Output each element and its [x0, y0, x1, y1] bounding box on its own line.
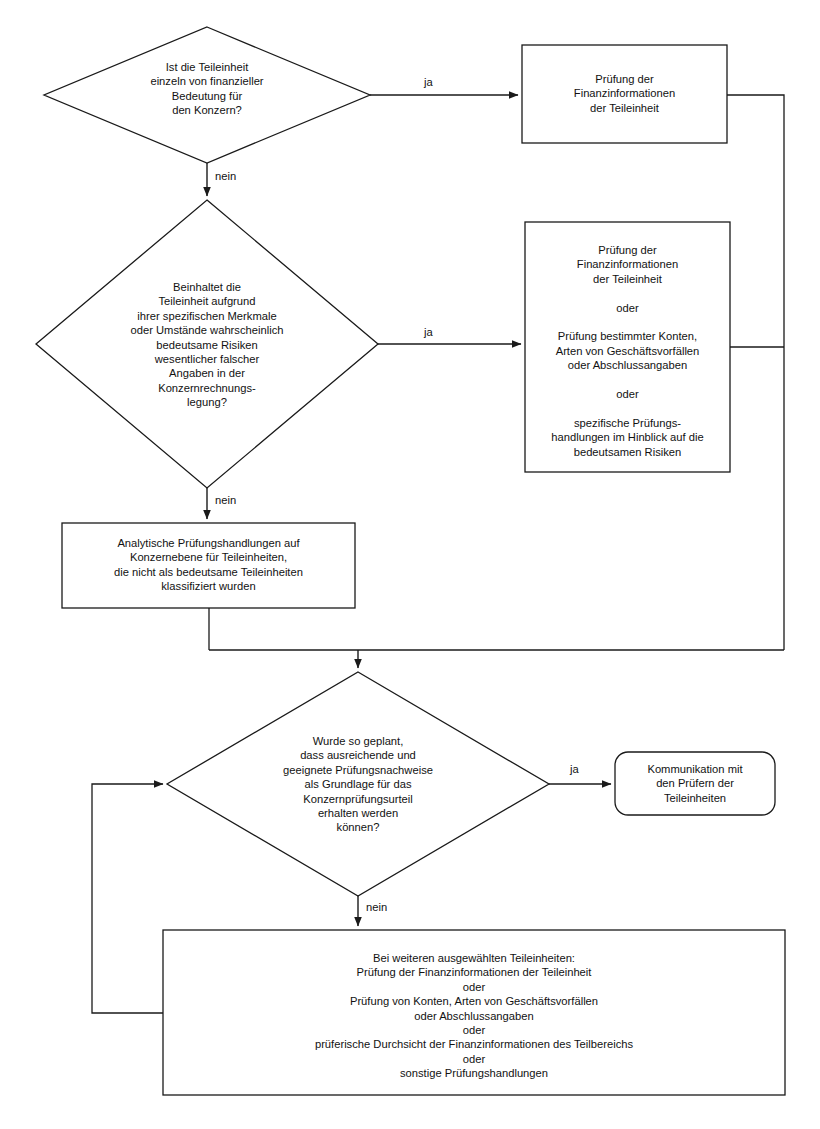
flowchart-page: Ist die Teileinheit einzeln von finanzie… [0, 0, 820, 1129]
process-2-node[interactable] [525, 222, 730, 472]
decision-2-node[interactable] [36, 200, 378, 488]
edge-feedback-loop [92, 784, 163, 1013]
edge-label-d3-no: nein [366, 901, 387, 914]
process-4-node[interactable] [615, 752, 775, 815]
edge-label-d3-yes: ja [570, 763, 579, 776]
edge-label-d2-yes: ja [424, 326, 433, 339]
decision-3-node[interactable] [167, 672, 549, 896]
process-3-node[interactable] [62, 523, 355, 608]
process-5-node[interactable] [163, 930, 785, 1095]
decision-1-node[interactable] [44, 27, 370, 163]
edge-p1-to-merge [727, 95, 784, 650]
edge-label-d1-no: nein [215, 170, 236, 183]
process-1-node[interactable] [522, 45, 727, 143]
edge-label-d2-no: nein [215, 494, 236, 507]
edge-label-d1-yes: ja [424, 76, 433, 89]
